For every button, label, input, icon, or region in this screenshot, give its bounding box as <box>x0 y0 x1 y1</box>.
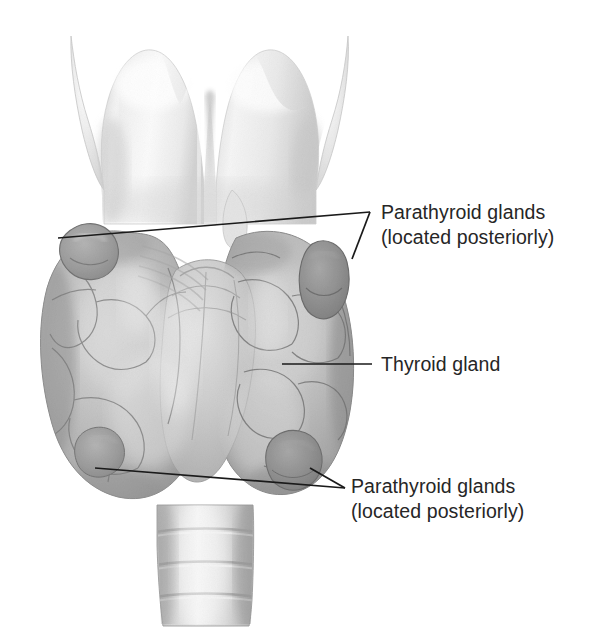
label-line-1: Parathyroid glands <box>381 201 545 223</box>
label-thyroid-gland: Thyroid gland <box>381 352 500 377</box>
thyroid-anatomy-illustration <box>0 0 594 634</box>
trachea-group <box>150 495 262 634</box>
parathyroid-gland-inferior-right <box>266 430 322 490</box>
label-line-1: Parathyroid glands <box>351 475 515 497</box>
thyroid-gland-group <box>36 224 366 512</box>
label-line-2: (located posteriorly) <box>351 499 524 524</box>
parathyroid-gland-superior-right <box>299 241 349 319</box>
leader-line-parathyroid-superior-right <box>352 212 370 259</box>
tracheal-rings <box>150 495 262 634</box>
superior-horn-right <box>316 36 348 190</box>
anatomical-figure: Parathyroid glands (located posteriorly)… <box>0 0 594 634</box>
label-line-2: (located posteriorly) <box>381 225 554 250</box>
label-parathyroid-glands-inferior: Parathyroid glands (located posteriorly) <box>351 474 524 524</box>
label-line-1: Thyroid gland <box>381 353 500 375</box>
label-parathyroid-glands-superior: Parathyroid glands (located posteriorly) <box>381 200 554 250</box>
